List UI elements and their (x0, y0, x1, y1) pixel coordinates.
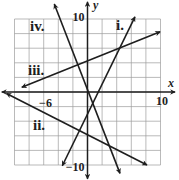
line-label-ii: ii. (33, 117, 45, 133)
line-iii (22, 32, 160, 87)
line-label-iii: iii. (28, 62, 45, 78)
line-label-i: i. (116, 17, 124, 33)
line-ii (6, 93, 147, 165)
y-tick-label-neg-10: −10 (66, 160, 85, 174)
y-tick-label-10: 10 (73, 10, 85, 24)
coordinate-plane: x y 10 −10 −6 10 i. ii. iii. iv. (0, 0, 179, 180)
line-label-iv: iv. (30, 18, 45, 34)
x-tick-label-neg-6: −6 (39, 96, 52, 110)
y-axis-label: y (91, 0, 99, 12)
x-tick-label-10: 10 (156, 94, 168, 108)
x-axis-label: x (167, 76, 174, 90)
